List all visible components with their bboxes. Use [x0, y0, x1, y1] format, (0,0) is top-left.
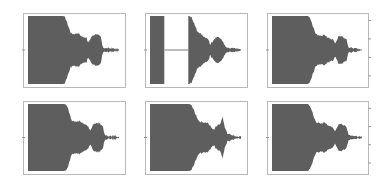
waveform-area-1 — [150, 104, 241, 171]
waveform-panel-4 — [22, 102, 126, 175]
waveform-area-1 — [28, 104, 119, 171]
waveform-panel-5 — [144, 102, 248, 175]
waveform-panel-2 — [144, 14, 248, 88]
waveform-area-2 — [188, 16, 241, 84]
waveform-area-1 — [150, 16, 164, 84]
waveform-panel-1 — [22, 14, 126, 88]
waveform-area-1 — [28, 16, 119, 84]
waveform-panel-3 — [266, 14, 371, 88]
waveform-panel-6 — [266, 102, 371, 175]
waveform-area-1 — [272, 104, 362, 171]
waveform-grid — [0, 0, 387, 184]
waveform-area-1 — [272, 16, 362, 84]
